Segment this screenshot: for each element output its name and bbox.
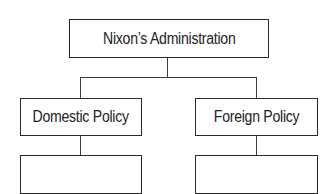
connector-horizontal-branch	[80, 77, 257, 78]
connector-to-domestic-policy	[80, 77, 81, 98]
node-foreign-policy: Foreign Policy	[195, 98, 318, 136]
node-domestic-policy-child-empty	[20, 155, 142, 194]
connector-root-to-branches	[167, 58, 168, 78]
node-label: Nixon’s Administration	[103, 30, 235, 48]
node-foreign-policy-child-empty	[195, 155, 318, 194]
node-label: Domestic Policy	[33, 108, 129, 126]
connector-to-foreign-policy	[256, 77, 257, 98]
node-root-nixons-administration: Nixon’s Administration	[69, 19, 269, 58]
connector-foreign-to-child	[256, 136, 257, 155]
node-label: Foreign Policy	[214, 108, 300, 126]
connector-domestic-to-child	[80, 136, 81, 155]
node-domestic-policy: Domestic Policy	[20, 98, 142, 136]
